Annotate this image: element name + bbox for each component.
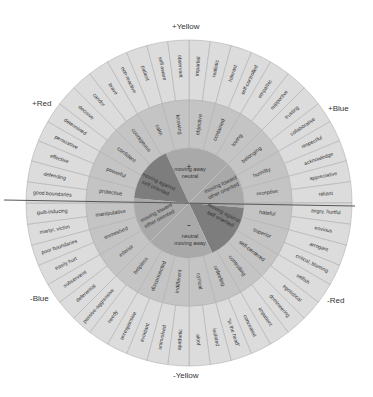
plus-sign: +	[186, 162, 191, 172]
outer-segment-label: reliant	[318, 190, 333, 197]
emotion-wheel: impartialrealistictolerantself-controlle…	[0, 0, 373, 397]
axis-label-minus-blue: -Blue	[30, 294, 49, 303]
center-sector-label: neutral	[182, 173, 198, 179]
axis-label-plus-red: +Red	[32, 99, 51, 108]
center-sector-label: neutral	[182, 233, 198, 239]
outer-segment-label: impartial	[194, 56, 201, 76]
axis-label-plus-yellow: +Yellow	[172, 22, 200, 31]
axis-label-minus-red: -Red	[327, 296, 344, 305]
center-sector-label: moving away	[174, 240, 206, 246]
minus-sign: -	[187, 219, 190, 230]
axis-label-plus-blue: +Blue	[328, 104, 349, 113]
outer-segment-label: aloof	[195, 334, 202, 346]
axis-label-minus-yellow: -Yellow	[173, 371, 199, 380]
